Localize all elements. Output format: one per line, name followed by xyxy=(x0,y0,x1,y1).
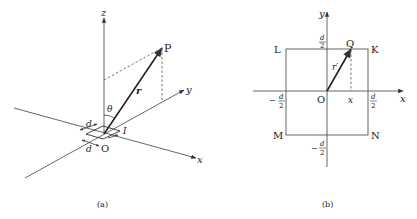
svg-text:2: 2 xyxy=(279,102,283,110)
x-axis-label-b: x xyxy=(400,93,406,104)
corner-n: N xyxy=(371,130,380,141)
point-q-label: Q xyxy=(346,38,354,49)
svg-text:2: 2 xyxy=(320,149,324,157)
theta-arc xyxy=(104,115,114,118)
tick-y-neg-d2: − d 2 xyxy=(311,140,326,157)
theta-label: θ xyxy=(107,104,113,114)
point-p-label: P xyxy=(164,42,172,55)
corner-m: M xyxy=(273,130,283,141)
svg-text:2: 2 xyxy=(371,102,375,110)
current-label: I xyxy=(122,126,127,136)
panel-a: z P r y θ d I d O x (a) xyxy=(14,7,203,209)
origin-o-label: O xyxy=(101,143,109,154)
tick-y-pos-d2: d 2 xyxy=(319,34,326,50)
svg-text:2: 2 xyxy=(320,42,324,50)
x-axis-label: x xyxy=(197,154,203,165)
vector-r xyxy=(104,48,162,134)
dashed-projection-z xyxy=(104,48,162,80)
svg-text:d: d xyxy=(279,93,284,101)
svg-text:d: d xyxy=(320,140,325,148)
origin-o-label-b: O xyxy=(317,94,325,105)
tick-x-pos-d2: d 2 xyxy=(370,93,377,110)
panel-b: y L K M N Q r′ O x x d 2 − d 2 d 2 − xyxy=(253,8,406,209)
z-axis-label: z xyxy=(100,7,107,18)
loop-side-d-bottom: d xyxy=(86,144,92,154)
vector-r-prime-label: r′ xyxy=(332,62,338,72)
svg-text:d: d xyxy=(320,34,325,42)
figure: z P r y θ d I d O x (a) y L K M N Q r′ O… xyxy=(0,0,417,219)
caption-a: (a) xyxy=(97,200,108,209)
y-axis-label: y xyxy=(185,84,192,95)
vector-r-prime xyxy=(327,49,351,91)
corner-k: K xyxy=(371,44,379,55)
caption-b: (b) xyxy=(322,200,333,209)
svg-text:d: d xyxy=(371,93,376,101)
vector-r-label: r xyxy=(136,85,142,96)
loop-side-d-top: d xyxy=(86,119,92,129)
tick-x-neg-d2: − d 2 xyxy=(269,93,285,110)
y-axis-label-b: y xyxy=(318,8,325,19)
corner-l: L xyxy=(274,44,281,55)
svg-text:−: − xyxy=(269,96,276,105)
x-marker-label: x xyxy=(348,95,353,105)
svg-text:−: − xyxy=(311,144,318,153)
